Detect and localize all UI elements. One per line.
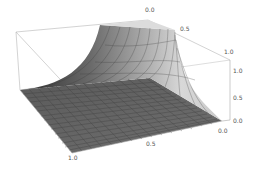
tick-z-0: 0.0 xyxy=(233,117,243,124)
tick-front-05: 0.5 xyxy=(146,140,156,147)
tick-z-05: 0.5 xyxy=(233,94,243,101)
surface-plot: 0.0 0.5 1.0 1.0 0.5 0.0 0.0 0.5 1.0 xyxy=(0,0,253,174)
tick-top-0: 0.0 xyxy=(145,6,155,13)
tick-front-0: 0.0 xyxy=(218,127,228,134)
tick-top-1: 1.0 xyxy=(224,48,234,55)
tick-z-1: 1.0 xyxy=(233,67,243,74)
tick-top-05: 0.5 xyxy=(180,25,190,32)
tick-front-1: 1.0 xyxy=(68,154,78,161)
